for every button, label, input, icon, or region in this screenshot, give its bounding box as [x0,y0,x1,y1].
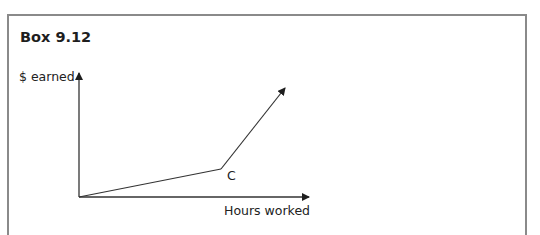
kink-point-label: C [227,168,236,183]
x-axis-label: Hours worked [224,203,310,218]
earnings-line-segment-2 [221,88,285,169]
earnings-diagram [0,0,540,235]
y-axis-label: $ earned [19,69,75,84]
earnings-line-segment-1 [79,169,221,197]
